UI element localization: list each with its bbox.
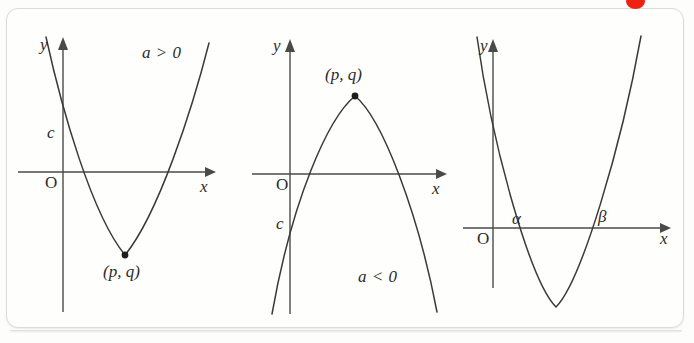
vertex-label: (p, q) xyxy=(103,263,140,280)
root-label-beta: β xyxy=(598,208,606,225)
x-axis-label: x xyxy=(200,178,208,195)
y-intercept-label: c xyxy=(276,215,284,232)
origin-label: O xyxy=(45,174,57,191)
y-axis-label: y xyxy=(480,37,488,54)
x-axis-label: x xyxy=(660,230,668,247)
panel-upward-parabola: y x O c (p, q) a > 0 xyxy=(0,0,240,343)
condition-label: a < 0 xyxy=(358,268,397,285)
parabola-curve xyxy=(477,36,641,307)
panel-roots-parabola: y x O α β xyxy=(455,0,694,343)
figure-page: y x O c (p, q) a > 0 y x O c (p, xyxy=(0,0,694,343)
root-label-alpha: α xyxy=(512,210,521,227)
condition-label: a > 0 xyxy=(142,44,181,61)
parabola-curve xyxy=(272,96,437,314)
panel-3-graph xyxy=(455,0,694,343)
parabola-curve xyxy=(46,37,209,255)
panel-1-graph xyxy=(0,0,240,343)
vertex-dot xyxy=(122,252,129,259)
y-axis xyxy=(58,37,68,312)
vertex-dot xyxy=(352,93,359,100)
origin-label: O xyxy=(276,176,288,193)
x-axis-label: x xyxy=(432,180,440,197)
x-axis xyxy=(463,223,671,233)
y-intercept-label: c xyxy=(47,124,55,141)
y-axis-label: y xyxy=(40,36,48,53)
panel-downward-parabola: y x O c (p, q) a < 0 xyxy=(240,0,455,343)
y-axis xyxy=(488,39,498,288)
y-axis-label: y xyxy=(273,37,281,54)
origin-label: O xyxy=(477,230,489,247)
vertex-label: (p, q) xyxy=(325,66,362,83)
